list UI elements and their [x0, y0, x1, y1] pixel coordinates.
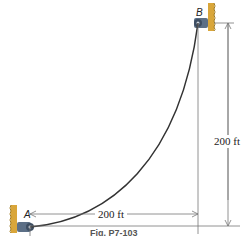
figure-caption: Fig. P7-103	[90, 228, 138, 236]
dimension-lines	[0, 0, 248, 236]
point-b-label: B	[196, 8, 203, 18]
vertical-dimension-label: 200 ft	[214, 135, 240, 148]
point-a-label: A	[24, 210, 31, 220]
horizontal-dimension-label: 200 ft	[95, 209, 127, 220]
